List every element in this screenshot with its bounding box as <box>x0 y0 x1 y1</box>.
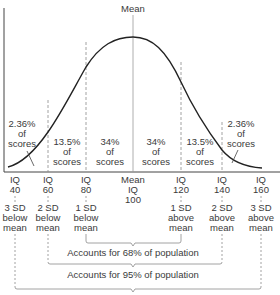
sd-120-line3: mean <box>169 222 193 233</box>
region-6-scores: scores <box>227 138 255 149</box>
bracket-68 <box>86 234 181 246</box>
sd-140-line3: mean <box>210 222 234 233</box>
region-5-scores: scores <box>186 156 214 167</box>
region-1-scores: scores <box>8 138 36 149</box>
tick-120-value: 120 <box>173 184 189 195</box>
bell-curve <box>8 37 262 168</box>
bracket-99 <box>15 287 261 292</box>
sd-60-line3: mean <box>36 222 60 233</box>
sd-40-line3: mean <box>3 222 27 233</box>
tick-160-value: 160 <box>253 184 269 195</box>
region-3-scores: scores <box>96 156 124 167</box>
tick-100-value: 100 <box>125 194 141 205</box>
region-labels: 2.36% of scores 13.5% of scores 34% of s… <box>8 118 255 167</box>
mean-top-label: Mean <box>121 3 145 14</box>
tick-80-value: 80 <box>81 184 92 195</box>
sd-labels: 3 SD below mean 2 SD below mean 1 SD bel… <box>3 202 274 233</box>
sd-80-line3: mean <box>74 222 98 233</box>
tick-60-value: 60 <box>43 184 54 195</box>
region-4-scores: scores <box>142 156 170 167</box>
tick-140-value: 140 <box>214 184 230 195</box>
normal-distribution-diagram: Mean 2.36% of scores 13.5% of scores 34%… <box>0 0 280 295</box>
x-tick-labels: IQ 40 IQ 60 IQ 80 Mean IQ 100 IQ 120 IQ … <box>10 174 269 205</box>
sd-160-line3: mean <box>249 222 273 233</box>
bracket-68-label: Accounts for 68% of population <box>67 247 199 258</box>
tick-40-value: 40 <box>10 184 21 195</box>
population-brackets <box>15 234 261 292</box>
bracket-95-label: Accounts for 95% of population <box>67 269 199 280</box>
bracket-95 <box>48 262 222 267</box>
region-2-scores: scores <box>53 156 81 167</box>
